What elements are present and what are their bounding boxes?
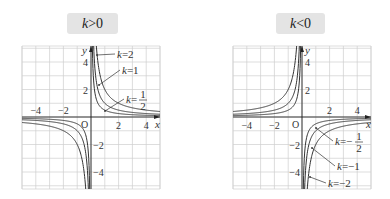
leader-dot xyxy=(104,110,106,112)
x-axis-label: x xyxy=(154,118,160,130)
curve-k--1-2-neg-branch xyxy=(233,43,301,116)
y-tick-label: 4 xyxy=(83,57,88,68)
leader-line xyxy=(97,54,115,55)
leader-dot xyxy=(309,176,311,178)
leader-line xyxy=(99,70,120,85)
x-tick-label: −2 xyxy=(269,120,280,131)
leader-dot xyxy=(96,54,98,56)
y-tick-label: −2 xyxy=(289,140,300,151)
x-tick-label: −2 xyxy=(58,105,69,116)
chart-panel-k-positive: xyO−4−22442−2−4k=2k=1k=12 xyxy=(22,43,160,192)
x-tick-label: 2 xyxy=(327,105,332,116)
chart-panel-k-negative: xyO−4−22442−2−4k=−12k=−1k=−2 xyxy=(233,43,371,192)
curve-k--2-neg-branch xyxy=(233,43,297,112)
x-tick-label: −4 xyxy=(241,120,252,131)
y-tick-label: −4 xyxy=(93,167,104,178)
y-axis-label: y xyxy=(304,44,310,56)
curve-label-k-2: k=2 xyxy=(117,48,134,60)
x-tick-label: 2 xyxy=(116,120,121,131)
leader-line xyxy=(310,177,326,183)
curve-label-k--1-2: k=− xyxy=(335,135,352,147)
y-axis-label: y xyxy=(81,44,87,56)
fraction-denominator: 2 xyxy=(356,142,362,154)
y-tick-label: 2 xyxy=(83,85,88,96)
x-tick-label: 4 xyxy=(355,105,360,116)
fraction-denominator: 2 xyxy=(140,100,146,112)
curve-label-k-1: k=1 xyxy=(122,64,139,76)
y-tick-label: −4 xyxy=(289,167,300,178)
curve-label-k-1-2: k= xyxy=(126,93,137,105)
curve-label-k--2: k=−2 xyxy=(328,177,351,189)
fraction-numerator: 1 xyxy=(356,130,362,142)
y-tick-label: −2 xyxy=(93,140,104,151)
x-tick-label: −4 xyxy=(30,105,41,116)
curve-k-2-neg-branch xyxy=(22,123,86,192)
y-tick-label: 2 xyxy=(305,85,310,96)
leader-dot xyxy=(98,84,100,86)
fraction-numerator: 1 xyxy=(140,88,146,100)
y-tick-label: 4 xyxy=(305,57,310,68)
hyperbola-plots: xyO−4−22442−2−4k=2k=1k=12xyO−4−22442−2−4… xyxy=(0,0,390,199)
x-tick-label: 4 xyxy=(144,120,149,131)
curve-label-k--1: k=−1 xyxy=(337,160,360,172)
leader-dot xyxy=(315,127,317,129)
leader-dot xyxy=(311,147,313,149)
curve-k-1-2-neg-branch xyxy=(22,118,90,191)
origin-label: O xyxy=(292,119,299,130)
